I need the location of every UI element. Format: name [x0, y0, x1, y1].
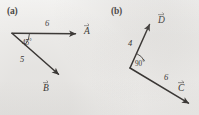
vector-label-A: A	[84, 27, 90, 37]
magnitude-label-b-4: 4	[128, 39, 132, 48]
vector-label-B: B	[43, 84, 49, 94]
vector-b-arrow	[12, 33, 59, 74]
magnitude-label-b-6: 6	[164, 73, 168, 82]
panel-a-label: (a)	[7, 7, 17, 17]
vector-label-C-text: C	[178, 83, 184, 93]
vector-label-D: D	[158, 16, 165, 26]
vector-label-D-text: D	[158, 15, 165, 25]
angle-label-45: 45°	[22, 38, 32, 47]
vector-diagram-figure: (a) (b) 6 5 4 6 45° 90° A B D C	[0, 0, 199, 115]
panel-b-label: (b)	[111, 7, 122, 17]
angle-label-90: 90°	[135, 59, 145, 68]
magnitude-label-a-5: 5	[20, 55, 24, 64]
vector-arrows-layer	[0, 0, 199, 115]
degree-sign-icon: °	[142, 59, 144, 65]
magnitude-label-a-6: 6	[45, 19, 49, 28]
vector-a-arrow	[12, 33, 76, 34]
degree-sign-icon: °	[29, 38, 31, 44]
vector-label-A-text: A	[84, 26, 90, 36]
vector-label-B-text: B	[43, 83, 49, 93]
vector-label-C: C	[178, 84, 184, 94]
